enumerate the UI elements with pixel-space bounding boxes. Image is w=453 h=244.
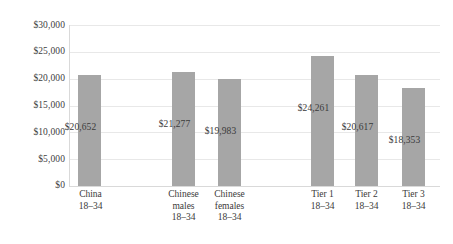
data-label-tier-1: $24,261 bbox=[288, 103, 339, 113]
x-label-tier-3-line1: Tier 3 bbox=[381, 189, 446, 201]
bars-layer: $20,652 $21,277 $19,983 $24,261 $20,617 … bbox=[69, 25, 440, 186]
x-label-chinese-females: Chinese females 18–34 bbox=[197, 189, 262, 224]
data-label-tier-2: $20,617 bbox=[332, 122, 383, 132]
x-label-chinese-females-line3: 18–34 bbox=[197, 212, 262, 224]
y-tick-30000: $30,000 bbox=[3, 21, 65, 31]
y-tick-5000: $5,000 bbox=[3, 155, 65, 165]
x-label-tier-3: Tier 3 18–34 bbox=[381, 189, 446, 212]
data-label-chinese-males: $21,277 bbox=[149, 119, 200, 129]
y-tick-25000: $25,000 bbox=[3, 47, 65, 57]
x-label-china: China 18–34 bbox=[58, 189, 123, 212]
bar-tier-1[interactable] bbox=[311, 56, 334, 186]
y-tick-0: $0 bbox=[3, 181, 65, 191]
data-label-chinese-females: $19,983 bbox=[195, 126, 246, 136]
x-axis-labels: China 18–34 Chinese males 18–34 Chinese … bbox=[69, 189, 440, 244]
gridline-baseline-0 bbox=[69, 186, 440, 187]
x-label-china-line2: 18–34 bbox=[58, 201, 123, 213]
x-label-chinese-females-line1: Chinese bbox=[197, 189, 262, 201]
data-label-china: $20,652 bbox=[55, 122, 106, 132]
y-tick-15000: $15,000 bbox=[3, 101, 65, 111]
data-label-tier-3: $18,353 bbox=[379, 135, 430, 145]
x-label-chinese-females-line2: females bbox=[197, 201, 262, 213]
x-label-china-line1: China bbox=[58, 189, 123, 201]
bar-chinese-males[interactable] bbox=[172, 72, 195, 186]
y-tick-20000: $20,000 bbox=[3, 74, 65, 84]
bar-chart: $30,000 $25,000 $20,000 $15,000 $10,000 … bbox=[0, 0, 453, 244]
x-label-tier-3-line2: 18–34 bbox=[381, 201, 446, 213]
